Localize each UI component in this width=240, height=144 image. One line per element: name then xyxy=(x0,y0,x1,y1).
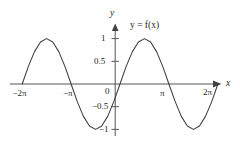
curve-equation-label: y = f(x) xyxy=(130,21,159,31)
y-axis-label: y xyxy=(110,9,114,19)
y-tick-label-minus-0point5: −0.5 xyxy=(92,102,108,111)
x-tick-label-minus-2pi: −2π xyxy=(13,89,27,98)
y-tick-label-0point5: 0.5 xyxy=(94,57,105,66)
x-axis xyxy=(10,81,222,88)
x-tick-label-2pi: 2π xyxy=(203,88,212,97)
x-tick-label-pi: π xyxy=(160,89,165,98)
sine-function-graph-figure: y x y = f(x) 1 0.5 0 −0.5 −1 −2π −π π 2π xyxy=(0,0,240,144)
y-tick-label-1: 1 xyxy=(101,34,106,43)
plot-canvas xyxy=(0,0,240,144)
x-axis-label: x xyxy=(226,79,230,89)
y-axis xyxy=(112,24,119,137)
x-tick-label-minus-pi: −π xyxy=(63,89,73,98)
y-tick-label-0: 0 xyxy=(105,87,110,96)
y-tick-label-minus-1: −1 xyxy=(99,125,109,134)
